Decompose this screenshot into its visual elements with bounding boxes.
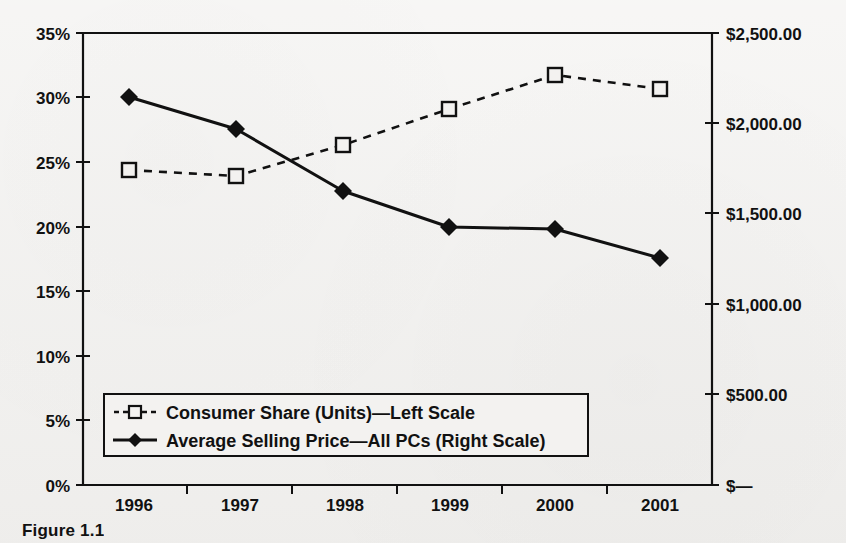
category-label-1998: 1998 — [326, 496, 364, 515]
figure-page: 0% 5% 10% 15% 20% 25% 30% 35% $— $500.00… — [0, 0, 846, 543]
series-consumer-share-marker — [229, 169, 243, 183]
left-axis-tick-label: 5% — [45, 412, 70, 431]
series-consumer-share-marker — [336, 138, 350, 152]
figure-caption: Figure 1.1 — [22, 521, 104, 543]
right-axis-tick-label: $2,500.00 — [726, 25, 802, 44]
series-consumer-share-line — [129, 75, 660, 176]
left-axis-tick-label: 0% — [45, 477, 70, 496]
right-axis-tick-label: $— — [726, 477, 752, 496]
right-axis-tick-label: $1,500.00 — [726, 205, 802, 224]
legend-entry-average-selling-price: Average Selling Price—All PCs (Right Sca… — [113, 431, 545, 451]
right-axis-tick-label: $1,000.00 — [726, 296, 802, 315]
legend-label-consumer-share: Consumer Share (Units)—Left Scale — [166, 403, 475, 423]
left-axis: 0% 5% 10% 15% 20% 25% 30% 35% — [36, 25, 90, 496]
series-average-selling-price-marker — [120, 88, 138, 106]
dual-axis-line-chart: 0% 5% 10% 15% 20% 25% 30% 35% $— $500.00… — [0, 0, 846, 543]
series-average-selling-price — [120, 88, 669, 267]
series-average-selling-price-marker — [651, 249, 669, 267]
left-axis-tick-label: 30% — [36, 89, 70, 108]
series-consumer-share-marker — [548, 68, 562, 82]
category-axis: 1996 1997 1998 1999 2000 2001 — [115, 485, 679, 515]
left-axis-tick-label: 20% — [36, 219, 70, 238]
series-average-selling-price-marker — [546, 220, 564, 238]
left-axis-tick-label: 25% — [36, 154, 70, 173]
chart-legend: Consumer Share (Units)—Left Scale Averag… — [104, 394, 588, 456]
right-axis: $— $500.00 $1,000.00 $1,500.00 $2,000.00… — [705, 25, 802, 496]
legend-label-average-selling-price: Average Selling Price—All PCs (Right Sca… — [166, 431, 545, 451]
series-average-selling-price-marker — [227, 120, 245, 138]
series-consumer-share-marker — [653, 82, 667, 96]
left-axis-tick-label: 10% — [36, 348, 70, 367]
series-consumer-share — [122, 68, 667, 183]
category-label-1996: 1996 — [115, 496, 153, 515]
series-average-selling-price-line — [129, 97, 660, 258]
series-consumer-share-marker — [122, 163, 136, 177]
category-label-1999: 1999 — [431, 496, 469, 515]
series-average-selling-price-marker — [334, 182, 352, 200]
category-label-1997: 1997 — [221, 496, 259, 515]
left-axis-tick-label: 35% — [36, 25, 70, 44]
right-axis-tick-label: $500.00 — [726, 386, 787, 405]
right-axis-tick-label: $2,000.00 — [726, 115, 802, 134]
legend-entry-consumer-share: Consumer Share (Units)—Left Scale — [114, 403, 475, 423]
category-label-2001: 2001 — [641, 496, 679, 515]
left-axis-tick-label: 15% — [36, 283, 70, 302]
category-label-2000: 2000 — [536, 496, 574, 515]
series-consumer-share-marker — [442, 102, 456, 116]
series-average-selling-price-marker — [440, 218, 458, 236]
open-square-marker-icon — [129, 406, 141, 418]
